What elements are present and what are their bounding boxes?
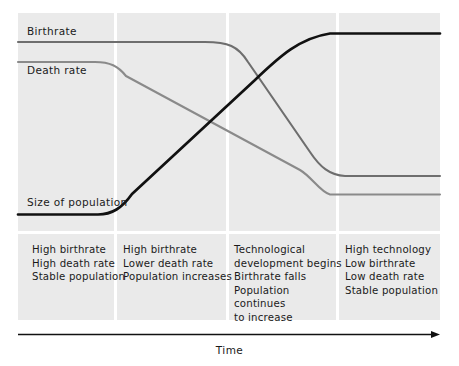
stage-4-caption: High technology Low birthrate Low death … bbox=[345, 243, 445, 297]
population-label: Size of population bbox=[27, 196, 128, 208]
chart-vector-layer bbox=[0, 0, 459, 366]
time-axis bbox=[18, 331, 440, 338]
birthrate-label: Birthrate bbox=[27, 25, 77, 37]
death-rate-label: Death rate bbox=[27, 64, 87, 76]
stage-2-caption: High birthrate Lower death rate Populati… bbox=[123, 243, 233, 284]
figure-canvas: Birthrate Death rate Size of population … bbox=[0, 0, 459, 366]
x-axis-label: Time bbox=[0, 344, 459, 356]
stage-3-caption: Technological development begins Birthra… bbox=[234, 243, 342, 325]
stage-1-caption: High birthrate High death rate Stable po… bbox=[32, 243, 132, 284]
